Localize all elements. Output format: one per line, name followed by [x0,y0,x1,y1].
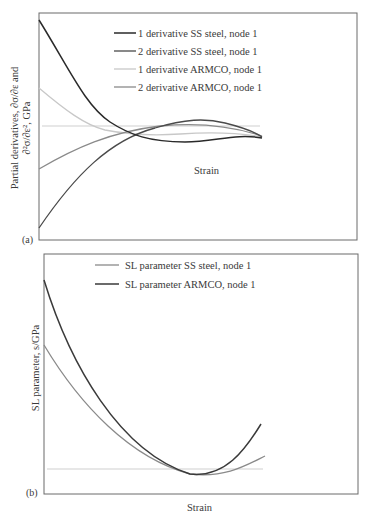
series-2-derivative-ss-steel [39,120,262,228]
panel-a-legend: 1 derivative SS steel, node 1 2 derivati… [114,28,262,93]
legend-label: SL parameter ARMCO, node 1 [125,279,256,290]
panel-a-x-axis-label: Strain [194,165,220,176]
panel-a-tag: (a) [22,234,33,246]
legend-label: 1 derivative ARMCO, node 1 [138,64,262,75]
y-label-line-1: Partial derivatives, ∂σ/∂ε and [9,66,20,189]
panel-b-y-axis-label: SL parameter, s/GPa [30,324,41,411]
series-2-derivative-armco [39,125,262,169]
panel-b-tag: (b) [26,487,38,499]
legend-label: 2 derivative ARMCO, node 1 [138,82,262,93]
legend-label: SL parameter SS steel, node 1 [125,260,251,271]
legend-label: 2 derivative SS steel, node 1 [138,46,258,57]
series-sl-parameter-armco [44,280,261,474]
figure: 1 derivative SS steel, node 1 2 derivati… [0,0,372,530]
panel-b-frame [44,254,358,494]
panel-b: SL parameter SS steel, node 1 SL paramet… [26,254,358,513]
legend-label: 1 derivative SS steel, node 1 [138,28,258,39]
panel-b-legend: SL parameter SS steel, node 1 SL paramet… [95,260,256,290]
panel-b-x-axis-label: Strain [187,502,213,513]
series-sl-parameter-ss-steel [44,345,265,475]
y-label: SL parameter, s/GPa [30,324,41,411]
y-label-line-2: ∂²σ/∂ε², GPa [21,101,32,154]
panel-a-y-axis-label: Partial derivatives, ∂σ/∂ε and ∂²σ/∂ε², … [9,66,32,189]
panel-a: 1 derivative SS steel, node 1 2 derivati… [9,13,357,246]
